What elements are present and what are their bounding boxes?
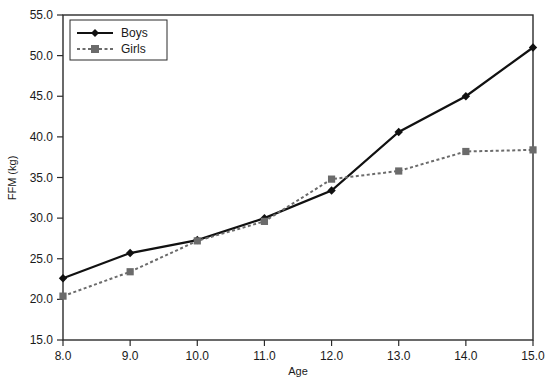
data-series-layer	[59, 43, 537, 299]
x-tick-label: 11.0	[253, 349, 276, 363]
x-axis-title: Age	[288, 365, 308, 377]
y-tick-label: 30.0	[30, 211, 54, 225]
y-tick-label: 50.0	[30, 49, 54, 63]
x-tick-label: 12.0	[320, 349, 344, 363]
x-tick-label: 14.0	[454, 349, 478, 363]
plot-frame	[63, 15, 533, 340]
y-tick-label: 35.0	[30, 171, 54, 185]
y-tick-label: 55.0	[30, 8, 54, 22]
x-tick-label: 13.0	[387, 349, 411, 363]
data-point	[328, 176, 335, 183]
legend-box	[70, 20, 167, 60]
y-tick-label: 40.0	[30, 130, 54, 144]
data-point	[127, 268, 134, 275]
y-tick-label: 25.0	[30, 252, 54, 266]
legend-label-boys: Boys	[121, 26, 148, 40]
chart-legend: Boys Girls	[70, 20, 167, 60]
data-point	[194, 237, 201, 244]
data-point	[59, 274, 67, 282]
legend-label-girls: Girls	[121, 42, 146, 56]
x-tick-label: 8.0	[55, 349, 72, 363]
data-point	[462, 148, 469, 155]
y-axis-title: FFM (kg)	[6, 156, 18, 201]
y-tick-label: 20.0	[30, 292, 54, 306]
data-point	[126, 249, 134, 257]
series-boys	[59, 43, 537, 282]
y-tick-label: 15.0	[30, 333, 54, 347]
data-point	[529, 146, 536, 153]
series-line-boys	[63, 48, 533, 279]
x-tick-label: 10.0	[186, 349, 210, 363]
line-chart: 15.020.025.030.035.040.045.050.055.0 8.0…	[0, 0, 558, 386]
y-axis-ticks: 15.020.025.030.035.040.045.050.055.0	[30, 8, 63, 347]
data-point	[261, 218, 268, 225]
chart-container: 15.020.025.030.035.040.045.050.055.0 8.0…	[0, 0, 558, 386]
legend-marker-girls-square	[91, 45, 99, 53]
data-point	[59, 293, 66, 300]
x-axis-ticks: 8.09.010.011.012.013.014.015.0	[55, 340, 545, 363]
x-tick-label: 15.0	[521, 349, 545, 363]
x-tick-label: 9.0	[122, 349, 139, 363]
y-tick-label: 45.0	[30, 89, 54, 103]
series-girls	[59, 146, 536, 299]
data-point	[395, 167, 402, 174]
